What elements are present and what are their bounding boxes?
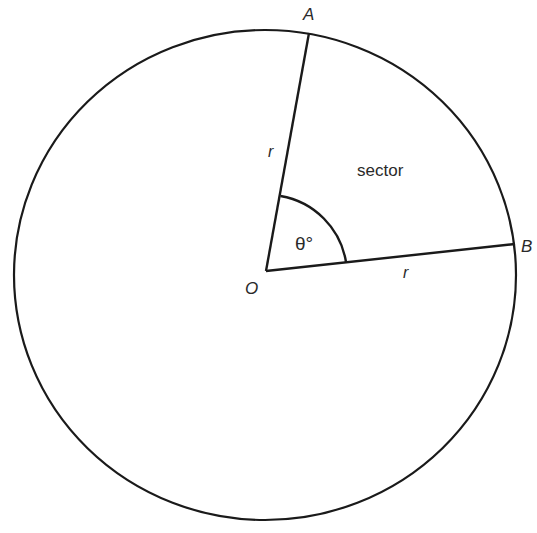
sector-diagram: A B O r r θ° sector: [0, 0, 537, 533]
label-radius-ob: r: [403, 264, 409, 281]
label-sector: sector: [357, 161, 404, 180]
label-radius-oa: r: [268, 143, 274, 160]
angle-arc: [281, 196, 347, 262]
label-angle: θ°: [295, 233, 313, 254]
circle: [14, 30, 516, 520]
label-point-a: A: [302, 5, 314, 24]
label-center-o: O: [245, 279, 258, 298]
label-point-b: B: [521, 237, 532, 256]
